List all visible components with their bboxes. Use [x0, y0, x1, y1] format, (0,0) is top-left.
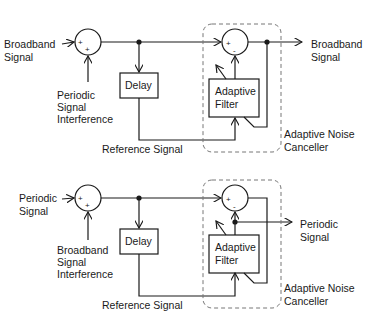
sign-minus: -	[233, 46, 236, 55]
interference-label: Broadband	[57, 244, 109, 256]
sign-plus: +	[226, 195, 231, 204]
reference-label: Reference Signal	[102, 143, 183, 155]
interference-label-3: Interference	[57, 268, 113, 280]
canceller-label-2: Canceller	[284, 141, 329, 153]
input-primary-label: Periodic	[19, 192, 57, 204]
adaptation-arrow	[216, 65, 226, 79]
input-primary-label: Broadband	[4, 38, 56, 50]
diagram-bottom: Periodic Signal + + Broadband Signal Int…	[19, 180, 355, 311]
interference-label-2: Signal	[57, 101, 86, 113]
input-primary-label-2: Signal	[4, 51, 33, 63]
sign-plus: +	[85, 201, 90, 210]
filter-label-2: Filter	[215, 254, 239, 266]
sign-plus: +	[226, 39, 231, 48]
delay-label: Delay	[125, 235, 153, 247]
canceller-label: Adaptive Noise	[284, 282, 355, 294]
filter-label-2: Filter	[215, 98, 239, 110]
adaptation-arrow	[216, 221, 226, 235]
sign-minus: -	[233, 202, 236, 211]
sign-plus: +	[78, 194, 83, 203]
sign-plus: +	[78, 38, 83, 47]
output-label: Broadband	[311, 38, 363, 50]
filter-label: Adaptive	[215, 85, 256, 97]
diagram-top: Broadband Signal + + Periodic Signal Int…	[4, 24, 363, 155]
input-arrow	[62, 42, 74, 44]
interference-label-2: Signal	[57, 256, 86, 268]
sign-plus: +	[85, 45, 90, 54]
filter-label: Adaptive	[215, 241, 256, 253]
output-label-2: Signal	[300, 231, 329, 243]
output-label-2: Signal	[311, 51, 340, 63]
interference-label: Periodic	[57, 89, 95, 101]
interference-label-3: Interference	[57, 113, 113, 125]
output-label: Periodic	[300, 218, 338, 230]
reference-label: Reference Signal	[102, 299, 183, 311]
input-primary-label-2: Signal	[19, 205, 48, 217]
delay-label: Delay	[125, 79, 153, 91]
canceller-label-2: Canceller	[284, 295, 329, 307]
adaptive-noise-canceller-diagrams: Broadband Signal + + Periodic Signal Int…	[0, 0, 375, 324]
input-arrow	[62, 198, 74, 199]
canceller-label: Adaptive Noise	[284, 128, 355, 140]
